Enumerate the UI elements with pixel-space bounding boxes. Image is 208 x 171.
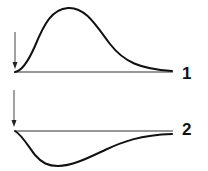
curve-1 bbox=[15, 8, 172, 72]
trace-2: 2 bbox=[12, 90, 192, 166]
down-arrow-icon bbox=[12, 120, 17, 127]
down-arrow-icon bbox=[13, 62, 18, 69]
curve-2 bbox=[15, 131, 172, 166]
trace-label-1: 1 bbox=[182, 64, 191, 83]
trace-1: 1 bbox=[13, 8, 192, 83]
waveform-diagram: 1 2 bbox=[0, 0, 208, 171]
trace-label-2: 2 bbox=[182, 120, 191, 139]
